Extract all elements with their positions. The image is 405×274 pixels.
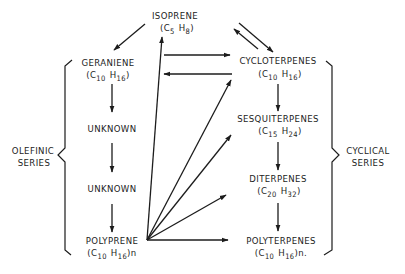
olefinic-series-label-line2: SERIES xyxy=(18,157,51,168)
node-name: SESQUITERPENES xyxy=(237,113,319,124)
node-formula: (C20H32) xyxy=(257,185,300,199)
node-name: UNKNOWN xyxy=(87,123,136,134)
edge-polyprene-to-sesquiterpenes xyxy=(147,135,231,240)
node-name: POLYTERPENES xyxy=(246,235,316,246)
node-isoprene: ISOPRENE (C5H8) xyxy=(152,10,198,36)
node-formula: (C15H24) xyxy=(258,125,301,139)
olefinic-series-label: OLEFINIC xyxy=(12,145,54,156)
node-unknown-2: UNKNOWN xyxy=(87,183,136,194)
cyclical-series-label-line2: SERIES xyxy=(352,157,385,168)
node-geraniene: GERANIENE (C10H16) xyxy=(81,57,134,83)
node-name: ISOPRENE xyxy=(152,10,198,21)
node-formula: (C10H16)n xyxy=(87,247,136,261)
node-formula: (C10H16) xyxy=(86,69,129,83)
edge-polyprene-to-isoprene xyxy=(147,37,162,240)
terpene-relationship-diagram: OLEFINIC SERIES CYCLICAL SERIES ISOPRENE… xyxy=(0,0,405,274)
node-name: CYCLOTERPENES xyxy=(239,55,316,66)
node-cycloterpenes: CYCLOTERPENES (C10H16) xyxy=(239,55,316,82)
node-name: UNKNOWN xyxy=(87,183,136,194)
node-formula: (C10H16)n. xyxy=(255,247,307,261)
cyclical-series-brace xyxy=(324,61,339,255)
node-polyprene: POLYPRENE (C10H16)n xyxy=(86,235,138,261)
cyclical-series-label: CYCLICAL xyxy=(346,145,390,156)
edge-cycloterpenes-to-isoprene xyxy=(234,29,258,49)
node-formula: (C5H8) xyxy=(160,22,194,36)
node-name: POLYPRENE xyxy=(86,235,138,246)
node-sesquiterpenes: SESQUITERPENES (C15H24) xyxy=(237,113,319,139)
node-diterpenes: DITERPENES (C20H32) xyxy=(249,173,306,199)
olefinic-series-brace xyxy=(58,60,72,255)
node-name: DITERPENES xyxy=(249,173,306,184)
node-name: GERANIENE xyxy=(81,57,134,68)
node-formula: (C10H16) xyxy=(258,68,301,82)
node-polyterpenes: POLYTERPENES (C10H16)n. xyxy=(246,235,316,261)
node-unknown-1: UNKNOWN xyxy=(87,123,136,134)
edge-isoprene-to-geraniene xyxy=(114,24,145,50)
